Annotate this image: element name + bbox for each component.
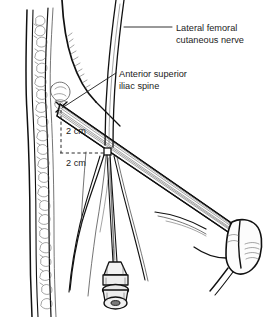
measurement-label-vertical: 2 cm [66, 126, 86, 136]
label-anterior-superior-iliac-spine: Anterior superior iliac spine [119, 69, 187, 91]
asis-label-line1: Anterior superior [119, 69, 187, 79]
pubic-bone [194, 220, 262, 295]
measurement-label-horizontal: 2 cm [66, 158, 86, 168]
needle-entry-marker [104, 148, 111, 155]
block-needle [104, 148, 117, 262]
thigh-contour [62, 0, 120, 126]
medical-illustration-figure: Lateral femoral cutaneous nerve Anterior… [0, 0, 275, 317]
anatomy-diagram-canvas: Lateral femoral cutaneous nerve Anterior… [0, 0, 275, 317]
fascia-lata-sheet [155, 212, 206, 236]
needle-hub [103, 262, 129, 309]
label-lateral-femoral-cutaneous-nerve: Lateral femoral cutaneous nerve [176, 23, 244, 45]
nerve-label-line2: cutaneous nerve [176, 35, 244, 45]
asis-label-line2: iliac spine [119, 81, 159, 91]
nerve-label-line1: Lateral femoral [176, 23, 237, 33]
abdominal-wall-skin-layer [26, 8, 56, 317]
